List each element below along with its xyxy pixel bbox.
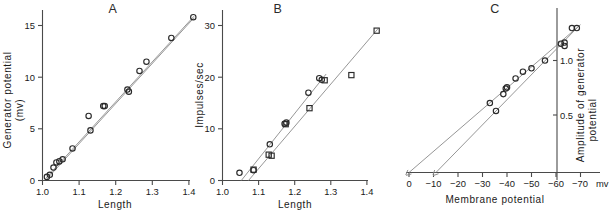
panel-b-ytick-30: 30 [205,20,215,31]
panel-c-title: C [490,2,500,16]
panel-c-x-ticks: 0 −10 −20 −30 −40 −50 −60 −70 mv [406,173,608,190]
fit-line-fit-lower [47,18,194,179]
panel-b-ytick-20: 20 [205,72,215,83]
data-point [144,59,149,64]
panel-c-ylabel-line1: Amplitude of generator [575,48,586,162]
fit-line-fit-from-zero [409,25,581,173]
panel-a-xtick-4: 1.3 [146,186,159,197]
panel-c-xtick-20: −20 [450,178,466,189]
panel-b-xlabel: Length [278,199,312,210]
panel-b-axes [223,10,369,181]
panel-b-x-ticks: 1.0 1.1 1.2 1.3 1.4 [216,181,373,198]
panel-a: A 0 5 10 15 1.0 1.1 [2,2,196,210]
data-point [86,113,91,118]
panel-c-ytick-10: 1.0 [560,55,573,66]
panel-b-y-ticks: 0 10 20 30 [205,20,223,186]
panel-c-data-points [487,25,579,113]
panel-a-ytick-10: 10 [25,72,35,83]
data-point [169,35,174,40]
panel-c: C 0.5 1.0 0 −10 −2 [406,2,609,205]
panel-a-y-ticks: 0 5 10 15 [25,20,43,186]
panel-c-ytick-05: 0.5 [560,110,573,121]
panel-a-ylabel-line1: Generator potential [2,51,13,148]
data-point [501,91,506,96]
data-point [520,69,525,74]
data-point [306,90,311,95]
panel-b-ytick-10: 10 [205,123,215,134]
panel-a-x-ticks: 1.0 1.1 1.2 1.3 1.4 [36,181,195,198]
panel-c-xtick-40: −40 [499,178,515,189]
panel-b-xtick-2: 1.1 [252,186,265,197]
panel-c-xtick-10: −10 [426,178,442,189]
panel-b-xtick-4: 1.3 [324,186,337,197]
panel-b-title: B [274,2,283,16]
panel-c-xtick-60: −60 [548,178,564,189]
panel-a-ytick-5: 5 [30,123,35,134]
data-point [237,170,242,175]
panel-c-xtick-50: −50 [524,178,540,189]
panel-c-xtick-70: −70 [572,178,588,189]
panel-a-xtick-5: 1.4 [182,186,195,197]
panel-b-ytick-0: 0 [210,175,215,186]
panel-a-xtick-3: 1.2 [109,186,122,197]
panel-a-ylabel-line2: (mv) [14,99,25,121]
panel-c-x-unit: mv [596,178,609,189]
panel-b-ylabel: Impulses/sec [194,62,205,128]
three-panel-figure: A 0 5 10 15 1.0 1.1 [0,0,614,213]
panel-a-axes [43,10,191,181]
panel-b-xtick-5: 1.4 [360,186,373,197]
panel-c-y-ticks: 0.5 1.0 [553,55,573,121]
panel-c-xtick-0: 0 [406,178,411,189]
panel-a-xtick-1: 1.0 [36,186,49,197]
panel-b-data-points [237,28,379,175]
panel-b-xtick-1: 1.0 [216,186,229,197]
panel-a-title: A [109,2,118,16]
panel-b-xtick-3: 1.2 [288,186,301,197]
panel-a-ytick-15: 15 [25,20,35,31]
panel-a-xtick-2: 1.1 [73,186,86,197]
panel-c-xlabel: Membrane potential [445,194,544,205]
panel-c-xtick-30: −30 [475,178,491,189]
figure-root: A 0 5 10 15 1.0 1.1 [0,0,614,213]
panel-b-fit-lines [241,29,377,180]
panel-a-ytick-0: 0 [30,175,35,186]
data-point [137,68,142,73]
panel-a-xlabel: Length [98,199,132,210]
panel-b: B 0 10 20 30 1.0 1.1 1.2 [194,2,379,210]
data-point [349,73,354,78]
panel-c-fit-lines [409,25,581,173]
panel-c-ylabel-line2: potential [587,98,598,141]
data-point [88,128,93,133]
